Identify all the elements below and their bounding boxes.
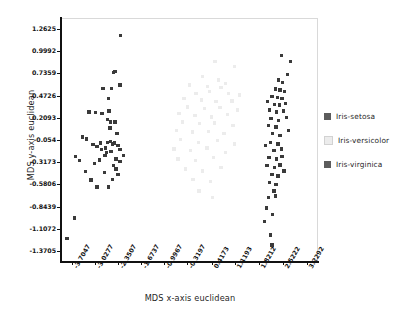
data-point [233,142,236,145]
data-point [267,124,270,127]
data-point [278,163,281,166]
data-point [177,112,180,115]
data-point [206,85,209,88]
data-point [109,150,112,153]
data-point [114,167,117,170]
y-tick-label: -1.3705 [29,247,56,254]
data-point [116,173,119,176]
data-point [172,147,175,150]
data-point [219,166,222,169]
data-point [270,243,273,246]
data-point [194,92,197,95]
y-tick-mark [57,96,60,97]
data-point [280,97,283,100]
data-point [269,117,272,120]
data-point [100,148,103,151]
data-point [267,196,270,199]
data-point [73,216,76,219]
data-point [194,159,197,162]
data-point [205,146,208,149]
legend-item-label: Iris-setosa [336,112,375,121]
y-tick-mark [57,51,60,52]
legend-item[interactable]: Iris-virginica [324,152,410,176]
legend-item[interactable]: Iris-setosa [324,104,410,128]
data-point [217,78,220,81]
data-point [277,119,280,122]
data-point [207,130,210,133]
legend-swatch-icon [324,161,331,168]
y-tick-mark [57,207,60,208]
data-point [100,112,103,115]
x-axis-title: MDS x-axis euclidean [61,293,319,303]
y-tick-label: 0.7359 [32,69,56,76]
data-point [188,83,191,86]
data-point [236,108,239,111]
data-point [85,137,88,140]
data-point [271,132,274,135]
data-point [272,149,275,152]
data-point [107,97,110,100]
data-point [265,206,268,209]
data-point [208,90,211,93]
data-point [216,139,219,142]
y-tick: -1.3705 [0,246,56,256]
y-tick-label: 0.9992 [32,47,56,54]
y-tick-mark [57,29,60,30]
y-tick-mark [57,73,60,74]
data-point [200,98,203,101]
legend-swatch-icon [324,136,333,145]
data-point [103,154,106,157]
y-tick-label: -0.3173 [29,158,56,165]
data-point [275,110,278,113]
data-point [224,151,227,154]
y-tick-mark [57,184,60,185]
data-point [209,180,212,183]
data-point [184,167,187,170]
data-point [226,113,229,116]
y-tick-mark [57,162,60,163]
data-point [278,88,281,91]
legend-item[interactable]: Iris-versicolor [324,128,410,152]
data-point [114,157,117,160]
data-point [176,157,179,160]
data-point [98,158,101,161]
y-tick-mark [57,118,60,119]
y-tick-mark [57,229,60,230]
data-point [268,181,271,184]
data-point [266,100,269,103]
y-tick: 1.2625 [0,24,56,34]
data-point [211,196,214,199]
data-point [78,159,81,162]
y-tick-label: 0.2093 [32,114,56,121]
data-point [219,86,222,89]
data-point [94,111,97,114]
x-tick: -2.3507 [118,264,119,265]
data-point [182,97,185,100]
data-point [113,120,116,123]
data-point [276,174,279,177]
data-point [113,70,116,73]
scatter-plot-chart: MDS y-axis euclidean 1.26250.99920.73590… [0,0,412,314]
data-point [104,146,107,149]
data-point [107,185,110,188]
data-point [274,183,277,186]
data-point [115,132,118,135]
data-point [191,178,194,181]
x-tick: -3.0277 [95,264,96,265]
y-tick: 0.4726 [0,91,56,101]
y-tick: -0.054 [0,135,56,145]
data-point [278,103,281,106]
data-point [282,109,285,112]
data-point [87,110,90,113]
y-tick: -0.3173 [0,157,56,167]
data-point [274,194,277,197]
y-axis-line [60,17,62,263]
x-tick: 2.5222 [283,264,284,265]
data-point [278,134,281,137]
data-point [263,220,266,223]
data-point [268,108,271,111]
data-point [227,92,230,95]
data-point [198,122,201,125]
x-tick: 1.8212 [259,264,260,265]
data-point [277,78,280,81]
